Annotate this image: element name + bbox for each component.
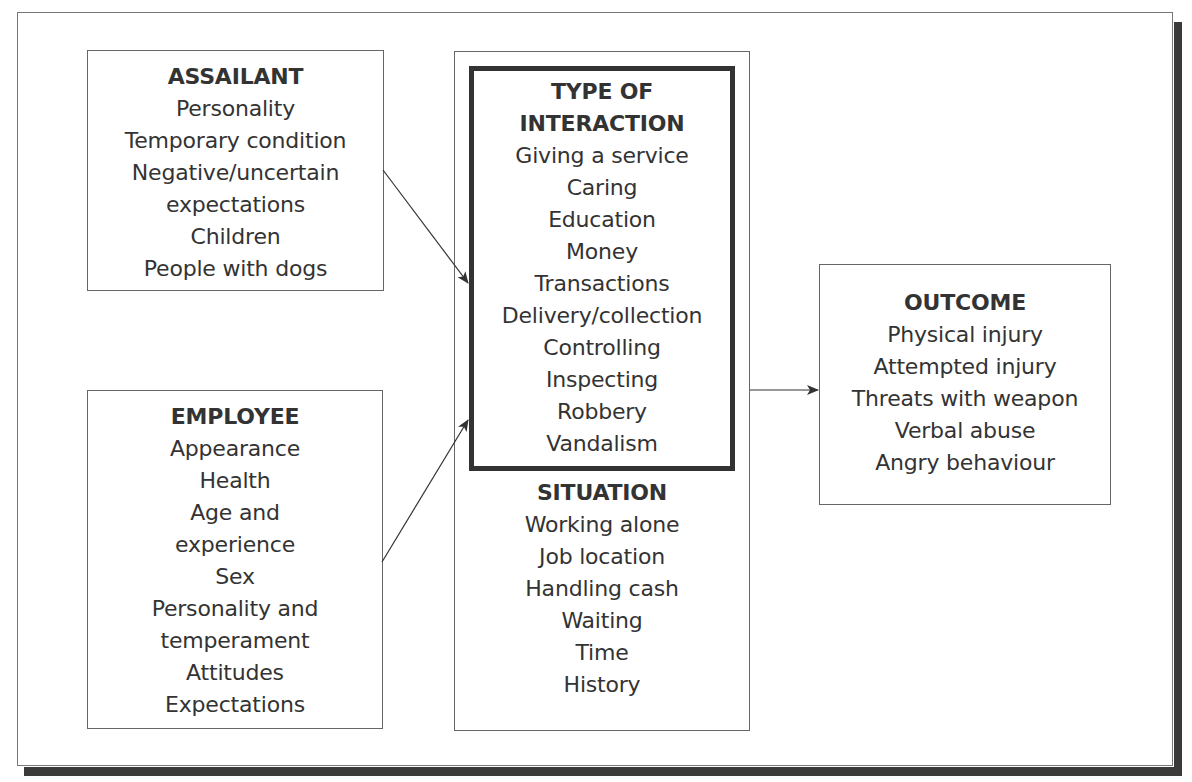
arrow-employee-to-interaction [382,420,468,562]
connector-arrows [0,0,1192,782]
arrow-assailant-to-interaction [383,170,468,283]
